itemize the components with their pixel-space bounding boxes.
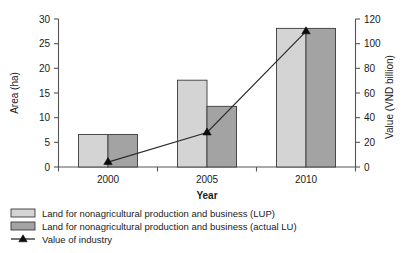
x-axis-ticks	[59, 167, 356, 172]
left-tick-label-15: 15	[39, 88, 51, 99]
triangle-marker-icon	[19, 235, 27, 242]
x-axis: 2000 2005 2010 Year	[59, 167, 356, 201]
legend-label-value-of-industry: Value of industry	[42, 234, 112, 245]
legend-item-lup[interactable]: Land for nonagricultural production and …	[11, 208, 275, 219]
left-tick-label-5: 5	[44, 137, 50, 148]
chart-figure: 30 25 20 15 10 5 0 Area (ha)	[0, 0, 407, 253]
legend-item-value-of-industry[interactable]: Value of industry	[11, 234, 112, 245]
right-tick-label-0: 0	[364, 162, 370, 173]
left-tick-label-20: 20	[39, 63, 51, 74]
right-tick-label-80: 80	[364, 63, 376, 74]
bar-lup-2000	[79, 134, 109, 167]
left-tick-label-30: 30	[39, 14, 51, 25]
left-axis-ticks	[54, 19, 59, 167]
left-tick-label-10: 10	[39, 112, 51, 123]
x-axis-title: Year	[196, 190, 217, 201]
dark-gray-bar-swatch-icon	[11, 222, 35, 230]
legend-label-lup: Land for nonagricultural production and …	[42, 208, 275, 219]
bar-actual-lu-2010	[306, 28, 336, 167]
right-tick-label-60: 60	[364, 88, 376, 99]
x-tick-label-2010: 2010	[295, 174, 318, 185]
x-axis-tick-labels: 2000 2005 2010	[97, 174, 318, 185]
bar-actual-lu-2000	[108, 134, 138, 167]
left-tick-label-25: 25	[39, 38, 51, 49]
right-y-axis: 120 100 80 60 40 20 0 Value (VND billion…	[356, 14, 396, 173]
bar-lup-2010	[277, 28, 307, 167]
dual-axis-combo-chart: 30 25 20 15 10 5 0 Area (ha)	[0, 0, 407, 253]
right-axis-tick-labels: 120 100 80 60 40 20 0	[364, 14, 381, 173]
right-axis-title: Value (VND billion)	[384, 55, 395, 139]
left-tick-label-0: 0	[44, 162, 50, 173]
right-tick-label-100: 100	[364, 38, 381, 49]
light-gray-bar-swatch-icon	[11, 209, 35, 217]
x-tick-label-2005: 2005	[196, 174, 219, 185]
left-axis-tick-labels: 30 25 20 15 10 5 0	[39, 14, 51, 173]
legend-item-actual-lu[interactable]: Land for nonagricultural production and …	[11, 221, 297, 232]
right-axis-ticks	[356, 19, 361, 167]
right-tick-label-40: 40	[364, 112, 376, 123]
right-tick-label-120: 120	[364, 14, 381, 25]
right-tick-label-20: 20	[364, 137, 376, 148]
left-y-axis: 30 25 20 15 10 5 0 Area (ha)	[9, 14, 59, 173]
left-axis-title: Area (ha)	[9, 72, 20, 114]
bar-lup-2005	[178, 80, 208, 167]
legend-label-actual-lu: Land for nonagricultural production and …	[42, 221, 297, 232]
chart-legend: Land for nonagricultural production and …	[11, 208, 297, 245]
x-tick-label-2000: 2000	[97, 174, 120, 185]
bar-actual-lu-2005	[207, 106, 237, 167]
